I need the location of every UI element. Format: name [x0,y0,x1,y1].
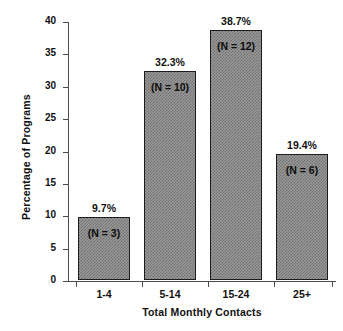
x-tick-3 [274,282,275,287]
y-tick-label-15: 15 [45,177,56,188]
y-tick-30: 30 [63,87,68,88]
y-tick-label-40: 40 [45,15,56,26]
bar-15-24: 38.7% (N = 12) [210,30,262,281]
y-tick-15: 15 [63,184,68,185]
plot-area: 0 5 10 15 20 25 30 35 40 [68,22,336,281]
y-tick-35: 35 [63,54,68,55]
y-axis-title: Percentage of Programs [20,57,32,257]
y-tick-label-10: 10 [45,209,56,220]
x-axis-title: Total Monthly Contacts [68,306,336,318]
bar-value-label-1-4: 9.7% [92,202,116,214]
bar-count-label-1-4: (N = 3) [88,227,120,239]
y-tick-5: 5 [63,249,68,250]
x-category-label-15-24: 15-24 [223,288,250,300]
bar-5-14: 32.3% (N = 10) [144,71,196,280]
bar-value-label-5-14: 32.3% [155,56,185,68]
x-axis-line [68,281,336,282]
y-tick-label-5: 5 [50,242,56,253]
bar-value-label-25-plus: 19.4% [287,139,317,151]
bar-count-label-25-plus: (N = 6) [286,164,318,176]
x-category-label-5-14: 5-14 [159,288,180,300]
x-tick-1 [142,282,143,287]
y-tick-10: 10 [63,216,68,217]
x-category-label-25-plus: 25+ [293,288,311,300]
bar-value-label-15-24: 38.7% [221,15,251,27]
x-tick-2 [208,282,209,287]
x-category-label-1-4: 1-4 [96,288,111,300]
x-tick-0 [76,282,77,287]
bar-count-label-5-14: (N = 10) [151,81,189,93]
y-tick-label-25: 25 [45,112,56,123]
bar-chart-figure: Percentage of Programs 0 5 10 15 20 25 3… [0,0,343,331]
bar-1-4: 9.7% (N = 3) [78,217,130,280]
bar-count-label-15-24: (N = 12) [217,40,255,52]
bar-25-plus: 19.4% (N = 6) [276,154,328,280]
y-tick-label-0: 0 [50,274,56,285]
y-tick-label-35: 35 [45,47,56,58]
y-tick-40: 40 [63,22,68,23]
y-tick-20: 20 [63,152,68,153]
y-tick-0: 0 [63,281,68,282]
x-tick-4 [332,282,333,287]
y-tick-25: 25 [63,119,68,120]
y-axis-line [68,22,69,282]
y-tick-label-20: 20 [45,145,56,156]
y-tick-label-30: 30 [45,80,56,91]
